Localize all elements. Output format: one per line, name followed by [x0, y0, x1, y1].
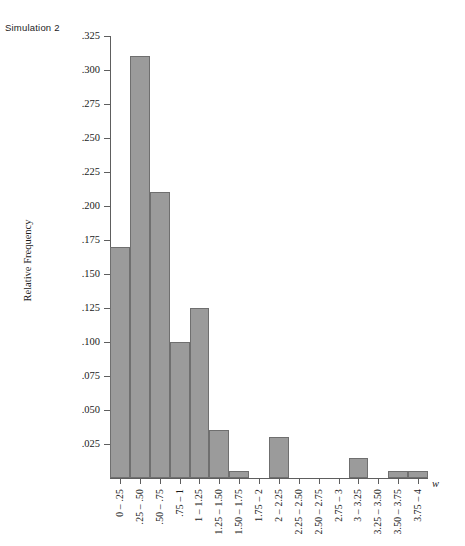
y-tick-label-text: .325 — [66, 31, 100, 41]
y-tick-label-text: .125 — [66, 303, 100, 313]
histogram-bar — [229, 471, 249, 478]
y-tick-label-text: .225 — [66, 167, 100, 177]
x-tick — [398, 478, 399, 484]
histogram-bar — [110, 247, 130, 478]
x-tick — [219, 478, 220, 484]
histogram-bar — [408, 471, 428, 478]
x-tick-label: .75 – 1 — [175, 489, 185, 517]
x-tick-label: 1.75 – 2 — [254, 489, 264, 522]
x-tick-label: .25 – .50 — [135, 489, 145, 524]
y-tick-label: .175 — [62, 235, 100, 245]
x-axis-title: w — [432, 478, 439, 489]
x-tick-label: 2.50 – 2.75 — [314, 489, 324, 534]
x-tick — [259, 478, 260, 484]
y-axis-title: Relative Frequency — [22, 201, 33, 321]
x-tick-label: 1.25 – 1.50 — [214, 489, 224, 534]
y-tick-label-text: .100 — [66, 337, 100, 347]
x-tick-label: 0 – .25 — [115, 489, 125, 517]
y-tick-label-text: .075 — [66, 371, 100, 381]
y-tick-label-text: .300 — [66, 65, 100, 75]
y-tick-label: .125 — [62, 303, 100, 313]
x-tick — [339, 478, 340, 484]
x-tick-label: 3.75 – 4 — [413, 489, 423, 522]
bars-container — [110, 36, 428, 478]
y-tick-label: .075 — [62, 371, 100, 381]
x-tick-label: .50 – .75 — [155, 489, 165, 524]
y-tick-label-text: .175 — [66, 235, 100, 245]
x-tick-label: 2.25 – 2.50 — [294, 489, 304, 534]
x-tick — [358, 478, 359, 484]
histogram-bar — [388, 471, 408, 478]
x-tick — [199, 478, 200, 484]
x-tick-label: 2.75 – 3 — [334, 489, 344, 522]
x-tick-label: 1.50 – 1.75 — [234, 489, 244, 534]
y-tick-label: .225 — [62, 167, 100, 177]
x-tick — [120, 478, 121, 484]
y-tick-label-text: .050 — [66, 405, 100, 415]
y-tick-label: .100 — [62, 337, 100, 347]
x-tick-label: 2 – 2.25 — [274, 489, 284, 522]
histogram-plot: Relative Frequency w .025.050.075.100.12… — [0, 0, 465, 546]
histogram-bar — [209, 430, 229, 478]
y-tick-label-text: .150 — [66, 269, 100, 279]
x-axis-line — [110, 478, 428, 479]
y-tick-label: .200 — [62, 201, 100, 211]
x-tick-label: 3.50 – 3.75 — [393, 489, 403, 534]
histogram-bar — [190, 308, 210, 478]
y-tick-label: .025 — [62, 439, 100, 449]
x-tick-label: 3 – 3.25 — [353, 489, 363, 522]
x-tick — [180, 478, 181, 484]
x-tick — [279, 478, 280, 484]
y-tick-label: .150 — [62, 269, 100, 279]
histogram-bar — [150, 192, 170, 478]
x-tick-label: 1 – 1.25 — [194, 489, 204, 522]
y-tick-label: .050 — [62, 405, 100, 415]
y-tick-label-text: .250 — [66, 133, 100, 143]
x-tick-label: 3.25 – 3.50 — [373, 489, 383, 534]
y-tick-label-text: .025 — [66, 439, 100, 449]
y-tick-label: .250 — [62, 133, 100, 143]
x-tick — [239, 478, 240, 484]
histogram-bar — [170, 342, 190, 478]
y-tick-label: .325 — [62, 31, 100, 41]
x-tick — [140, 478, 141, 484]
x-tick — [160, 478, 161, 484]
x-tick — [299, 478, 300, 484]
y-tick-label-text: .275 — [66, 99, 100, 109]
x-tick — [418, 478, 419, 484]
histogram-bar — [130, 56, 150, 478]
histogram-bar — [349, 458, 369, 478]
y-tick-label: .275 — [62, 99, 100, 109]
x-tick — [378, 478, 379, 484]
histogram-bar — [269, 437, 289, 478]
y-tick-label-text: .200 — [66, 201, 100, 211]
y-tick-label: .300 — [62, 65, 100, 75]
x-tick — [319, 478, 320, 484]
